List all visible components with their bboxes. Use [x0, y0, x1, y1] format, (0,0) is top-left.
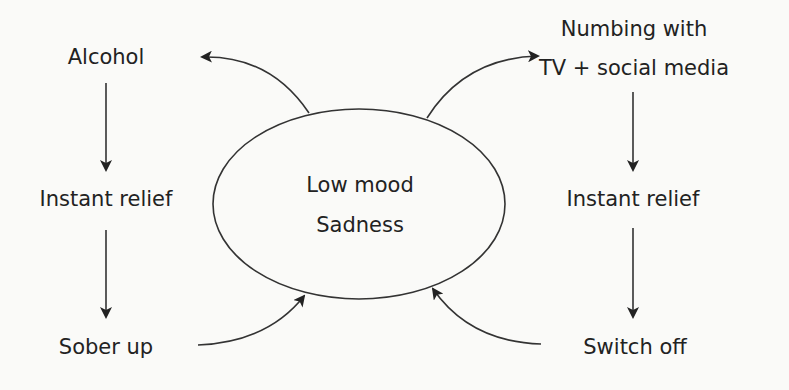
label-numbing-line1: Numbing with — [561, 16, 708, 42]
label-sober-up: Sober up — [59, 334, 153, 360]
label-alcohol: Alcohol — [68, 44, 145, 70]
center-ellipse — [213, 109, 505, 299]
arrow-sober-to-center — [198, 296, 304, 345]
label-switch-off: Switch off — [583, 334, 686, 360]
label-instant-relief-right: Instant relief — [567, 186, 700, 212]
label-numbing-line2: TV + social media — [539, 55, 729, 81]
center-label-sadness: Sadness — [316, 212, 404, 238]
center-label-low-mood: Low mood — [306, 172, 414, 198]
arrow-to-alcohol — [202, 57, 309, 113]
arrow-switchoff-to-center — [433, 289, 541, 344]
label-instant-relief-left: Instant relief — [40, 186, 173, 212]
arrow-to-numbing — [427, 56, 538, 118]
